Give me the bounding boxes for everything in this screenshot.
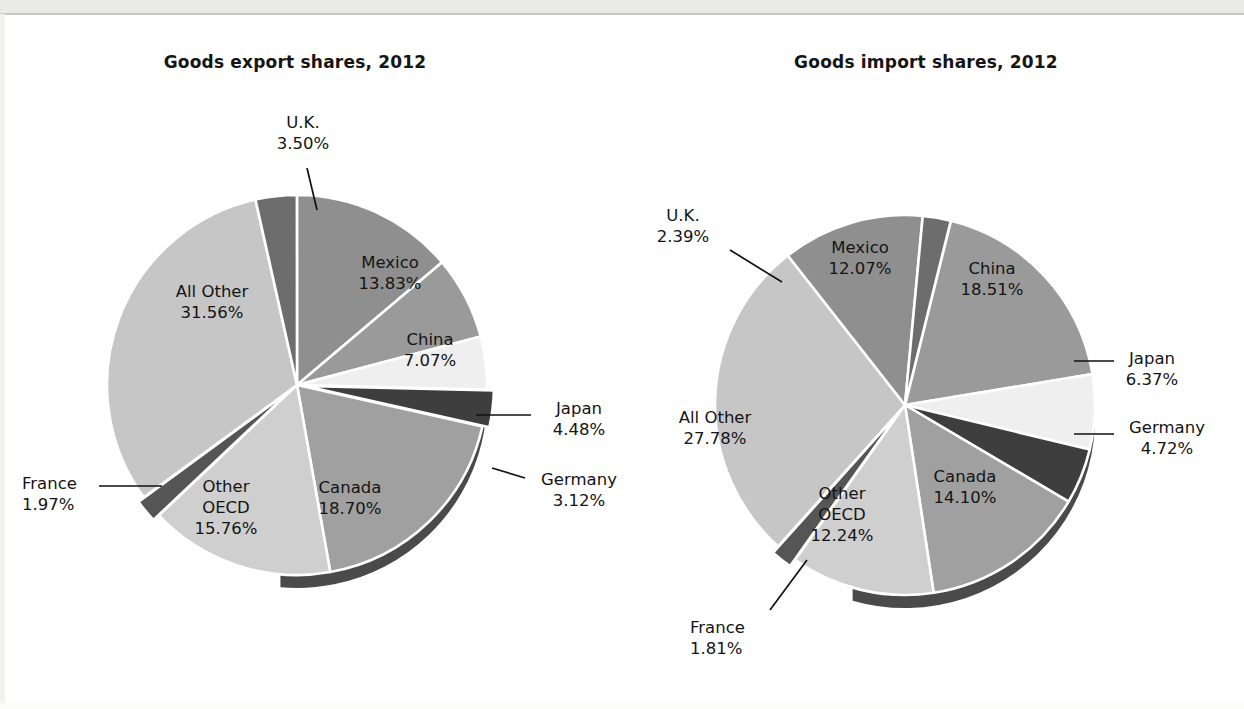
label-germany-import: Germany 4.72% <box>1107 417 1227 459</box>
label-all-other-export: All Other 31.56% <box>152 281 272 323</box>
label-japan-export-name: Japan <box>534 398 624 419</box>
label-france-export-value: 1.97% <box>22 494 122 515</box>
label-france-export: France 1.97% <box>22 473 122 515</box>
label-mexico-export: Mexico 13.83% <box>330 252 450 294</box>
label-germany-import-value: 4.72% <box>1107 438 1227 459</box>
label-canada-import-name: Canada <box>910 466 1020 487</box>
label-all-other-import-name: All Other <box>650 407 780 428</box>
label-france-import-name: France <box>690 617 800 638</box>
label-other-oecd-export-name-1: Other <box>166 476 286 497</box>
label-uk-export-name: U.K. <box>243 112 363 133</box>
label-canada-export: Canada 18.70% <box>295 477 405 519</box>
label-germany-export-name: Germany <box>524 469 634 490</box>
label-germany-import-name: Germany <box>1107 417 1227 438</box>
label-germany-export: Germany 3.12% <box>524 469 634 511</box>
label-other-oecd-export-value: 15.76% <box>166 518 286 539</box>
label-mexico-import-value: 12.07% <box>800 258 920 279</box>
label-uk-export: U.K. 3.50% <box>243 112 363 154</box>
chart-panel-goods-import: Goods import shares, 2012 U.K. 2.39% Mex… <box>622 0 1244 709</box>
label-germany-export-value: 3.12% <box>524 490 634 511</box>
label-other-oecd-import-name-1: Other <box>782 483 902 504</box>
label-all-other-import-value: 27.78% <box>650 428 780 449</box>
label-other-oecd-export: Other OECD 15.76% <box>166 476 286 539</box>
label-mexico-import: Mexico 12.07% <box>800 237 920 279</box>
leader-line <box>770 560 807 610</box>
label-all-other-import: All Other 27.78% <box>650 407 780 449</box>
label-china-export-name: China <box>375 329 485 350</box>
label-mexico-export-name: Mexico <box>330 252 450 273</box>
pie-chart-export <box>0 0 622 709</box>
label-other-oecd-import-value: 12.24% <box>782 525 902 546</box>
label-uk-import: U.K. 2.39% <box>628 205 738 247</box>
label-other-oecd-import: Other OECD 12.24% <box>782 483 902 546</box>
chart-panel-goods-export: Goods export shares, 2012 U.K. 3.50% Mex… <box>0 0 622 709</box>
label-all-other-export-name: All Other <box>152 281 272 302</box>
label-japan-import-value: 6.37% <box>1107 369 1197 390</box>
label-china-import-value: 18.51% <box>937 279 1047 300</box>
label-japan-import-name: Japan <box>1107 348 1197 369</box>
label-other-oecd-import-name-2: OECD <box>782 504 902 525</box>
label-uk-import-value: 2.39% <box>628 226 738 247</box>
label-canada-export-name: Canada <box>295 477 405 498</box>
label-mexico-export-value: 13.83% <box>330 273 450 294</box>
label-china-export-value: 7.07% <box>375 350 485 371</box>
label-uk-export-value: 3.50% <box>243 133 363 154</box>
label-france-import-value: 1.81% <box>690 638 800 659</box>
label-canada-export-value: 18.70% <box>295 498 405 519</box>
label-other-oecd-export-name-2: OECD <box>166 497 286 518</box>
label-france-export-name: France <box>22 473 122 494</box>
label-china-export: China 7.07% <box>375 329 485 371</box>
label-japan-import: Japan 6.37% <box>1107 348 1197 390</box>
leader-line <box>492 468 525 478</box>
label-mexico-import-name: Mexico <box>800 237 920 258</box>
label-japan-export: Japan 4.48% <box>534 398 624 440</box>
label-uk-import-name: U.K. <box>628 205 738 226</box>
label-all-other-export-value: 31.56% <box>152 302 272 323</box>
label-japan-export-value: 4.48% <box>534 419 624 440</box>
label-canada-import: Canada 14.10% <box>910 466 1020 508</box>
label-canada-import-value: 14.10% <box>910 487 1020 508</box>
label-china-import-name: China <box>937 258 1047 279</box>
label-france-import: France 1.81% <box>690 617 800 659</box>
label-china-import: China 18.51% <box>937 258 1047 300</box>
